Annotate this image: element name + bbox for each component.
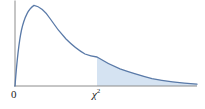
critical-value-label: χ2 (92, 88, 100, 100)
shaded-tail-region (97, 57, 197, 86)
origin-label: 0 (11, 89, 17, 100)
distribution-plot (0, 0, 205, 109)
chi-square-distribution-figure: 0 χ2 (0, 0, 205, 109)
chi-exponent: 2 (97, 87, 101, 95)
